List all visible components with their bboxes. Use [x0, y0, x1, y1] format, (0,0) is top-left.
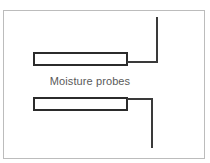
probe-lead-upper-vertical — [156, 17, 158, 63]
probe-lead-upper-horizontal — [127, 61, 158, 63]
probe-label: Moisture probes — [0, 74, 180, 88]
moisture-probes-diagram: Moisture probes — [0, 0, 210, 163]
moisture-probe-lower — [33, 97, 128, 111]
probe-lead-lower-horizontal — [127, 98, 153, 100]
probe-lead-lower-vertical — [151, 98, 153, 148]
moisture-probe-upper — [33, 52, 128, 66]
